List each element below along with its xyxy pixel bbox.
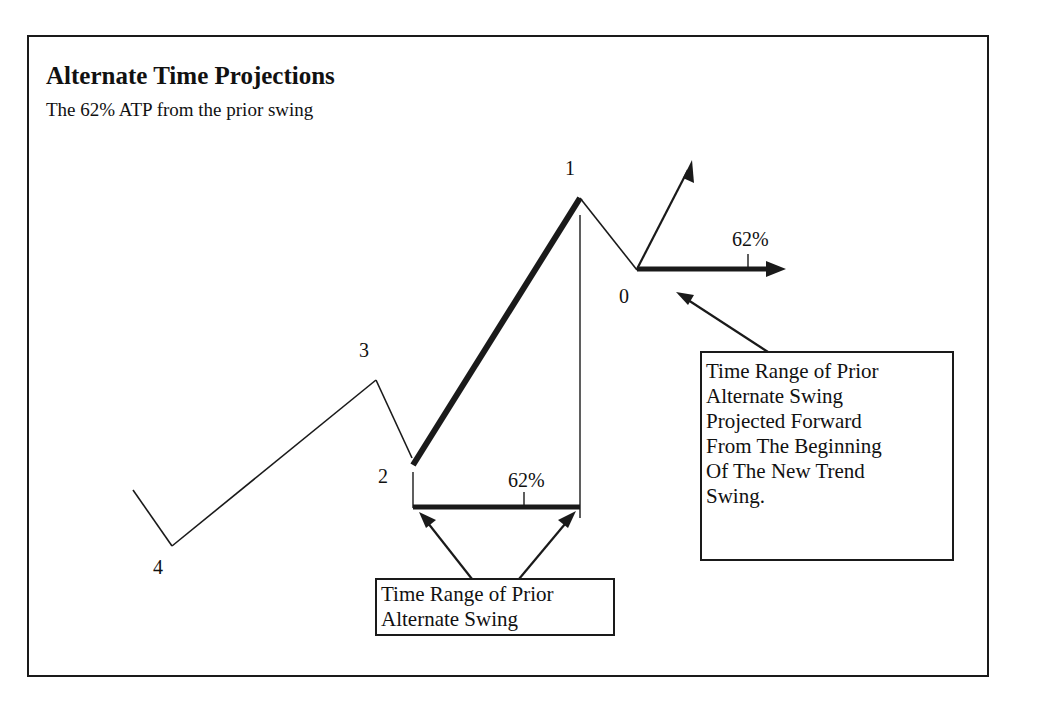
point-label-3: 3 (359, 340, 369, 360)
arrowhead-up-icon (683, 160, 694, 183)
callout-right-line-2: Alternate Swing (706, 384, 948, 409)
callout-right-line-5: Of The New Trend (706, 459, 948, 484)
callout-right-line-3: Projected Forward (706, 409, 948, 434)
callout-box-right: Time Range of Prior Alternate Swing Proj… (700, 351, 954, 561)
swing-line-thin (133, 198, 637, 546)
arrowhead-right-icon (766, 261, 786, 277)
callout-lower-line-1: Time Range of Prior (381, 582, 609, 607)
point-label-0: 0 (619, 286, 629, 306)
point-label-4: 4 (153, 557, 163, 577)
point-label-2: 2 (378, 466, 388, 486)
callout-box-lower: Time Range of Prior Alternate Swing (375, 578, 615, 636)
pointer-lower-right (519, 518, 570, 579)
pointer-lower-left (424, 518, 472, 579)
callout-right-line-1: Time Range of Prior (706, 359, 948, 384)
percent-label-upper: 62% (732, 229, 769, 249)
callout-right-line-4: From The Beginning (706, 434, 948, 459)
segment-pre-4 (133, 490, 172, 546)
arrowhead-pointer-left-icon (419, 512, 436, 528)
point-label-1: 1 (565, 158, 575, 178)
segment-3-to-2 (376, 380, 412, 458)
segment-1-to-0 (580, 198, 637, 270)
percent-label-lower: 62% (508, 470, 545, 490)
segment-2-to-1-thick (413, 198, 580, 465)
pointer-right-box (685, 298, 768, 352)
new-trend-arrow (637, 170, 688, 269)
arrowhead-pointer-right-icon (558, 511, 576, 528)
callout-lower-line-2: Alternate Swing (381, 607, 609, 632)
callout-right-line-6: Swing. (706, 484, 948, 509)
segment-4-to-3 (172, 380, 376, 546)
